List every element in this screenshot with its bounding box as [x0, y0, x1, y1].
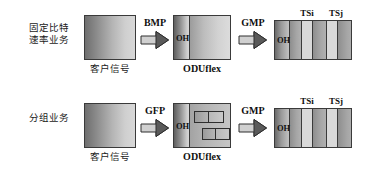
bmp-arrow-icon [140, 30, 170, 50]
oduflex-oh-region-row2: OH [174, 104, 190, 147]
timeslot-box-row1: OH [274, 20, 352, 60]
gmp-arrow-icon-row2 [238, 118, 268, 138]
oduflex-packet-upper-row2 [194, 111, 224, 123]
timeslot-slot-dark-row1-1 [290, 21, 301, 59]
oduflex-oh-label-row1: OH [176, 33, 189, 43]
oduflex-oh-region-row1: OH [174, 16, 190, 59]
oduflex-packet-lower-row2 [202, 128, 230, 140]
timeslot-label-tsj-row2: TSj [325, 96, 347, 106]
oduflex-oh-label-row2: OH [176, 121, 189, 131]
gmp-mapping-label-row1: GMP [236, 17, 270, 28]
timeslot-slot-dark-row1-2 [313, 21, 326, 59]
oduflex-box-row1: OH [173, 15, 231, 60]
timeslot-box-row2: OH [274, 108, 352, 148]
timeslot-slot-dark-row2-3 [338, 109, 352, 147]
timeslot-slot-tsi-row1 [302, 21, 312, 59]
service-type-label-row2-line1: 分组业务 [18, 112, 80, 124]
bmp-mapping-label: BMP [138, 17, 172, 28]
timeslot-slot-dark-row2-2 [313, 109, 326, 147]
timeslot-oh-label-row1: OH [277, 35, 290, 45]
service-type-label-row2: 分组业务 [18, 112, 80, 124]
oduflex-caption-row1: ODUflex [170, 63, 234, 74]
service-type-label-row1-line1: 固定比特 [18, 22, 80, 34]
service-type-label-row1-line2: 速率业务 [18, 34, 80, 46]
client-signal-box-row1 [84, 15, 136, 60]
gfp-mapping-label: GFP [138, 105, 172, 116]
diagram-canvas: 固定比特 速率业务 客户信号 BMP OH ODUflex GMP TSi TS… [0, 0, 374, 175]
timeslot-slot-dark-row2-1 [290, 109, 301, 147]
service-type-label-row1: 固定比特 速率业务 [18, 22, 80, 46]
gmp-arrow-icon-row1 [238, 30, 268, 50]
timeslot-label-tsi-row2: TSi [296, 96, 318, 106]
timeslot-label-tsi-row1: TSi [296, 8, 318, 18]
timeslot-slot-dark-row1-3 [338, 21, 352, 59]
packet-divider-lower [215, 129, 216, 139]
timeslot-slot-tsi-row2 [302, 109, 312, 147]
oduflex-caption-row2: ODUflex [170, 151, 234, 162]
client-signal-caption-row1: 客户信号 [78, 63, 142, 75]
gmp-mapping-label-row2: GMP [236, 105, 270, 116]
oduflex-payload-region-row1 [190, 16, 230, 59]
timeslot-oh-label-row2: OH [277, 123, 290, 133]
packet-divider-upper [208, 112, 209, 122]
client-signal-box-row2 [84, 103, 136, 148]
gfp-arrow-icon [140, 118, 170, 138]
timeslot-slot-tsj-row1 [327, 21, 337, 59]
client-signal-caption-row2: 客户信号 [78, 151, 142, 163]
timeslot-label-tsj-row1: TSj [325, 8, 347, 18]
timeslot-slot-tsj-row2 [327, 109, 337, 147]
oduflex-box-row2: OH [173, 103, 231, 148]
